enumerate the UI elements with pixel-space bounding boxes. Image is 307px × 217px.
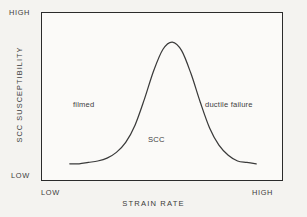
annotation-scc: SCC xyxy=(148,135,165,144)
y-axis-high-label: HIGH xyxy=(9,8,30,17)
plot-area xyxy=(41,12,283,181)
bell-curve-plot xyxy=(42,13,282,180)
x-axis-low-label: LOW xyxy=(41,188,60,197)
annotation-ductile-failure: ductile failure xyxy=(205,100,253,109)
y-axis-low-label: LOW xyxy=(11,171,30,180)
x-axis-title: STRAIN RATE xyxy=(0,199,307,208)
scc-susceptibility-chart: HIGH LOW LOW HIGH STRAIN RATE SCC SUSCEP… xyxy=(0,0,307,217)
y-axis-title: SCC SUSCEPTIBILITY xyxy=(15,35,24,155)
x-axis-high-label: HIGH xyxy=(252,188,273,197)
annotation-filmed: filmed xyxy=(73,100,94,109)
